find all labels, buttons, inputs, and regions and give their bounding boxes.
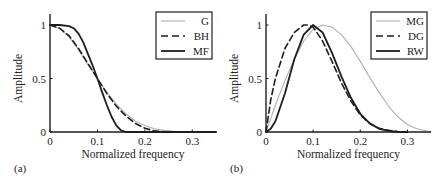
y-tick-label: 1	[41, 19, 47, 31]
y-tick-label: 0	[257, 126, 263, 138]
x-tick-label: 0	[263, 135, 269, 147]
legend-label-dg: DG	[408, 30, 424, 42]
x-tick-label: 0.3	[401, 135, 415, 147]
figure: 00.10.20.300.51Normalized frequencyAmpli…	[0, 0, 447, 184]
y-tick-label: 0.5	[32, 73, 46, 85]
x-tick-label: 0.2	[138, 135, 152, 147]
panel-label: (a)	[14, 162, 27, 175]
chart-panel-a: 00.10.20.300.51Normalized frequencyAmpli…	[12, 12, 216, 175]
legend-label-rw: RW	[407, 45, 425, 57]
y-tick-label: 0.5	[248, 73, 262, 85]
x-tick-label: 0.3	[185, 135, 199, 147]
chart-panel-b: 00.10.20.300.51Normalized frequencyAmpli…	[228, 12, 431, 175]
y-axis-label: Amplitude	[12, 54, 25, 103]
legend-label-mg: MG	[406, 15, 424, 27]
y-tick-label: 0	[41, 126, 47, 138]
x-tick-label: 0.2	[353, 135, 367, 147]
legend: MGDGRW	[371, 12, 427, 59]
legend-label-g: G	[201, 15, 209, 27]
y-axis-label: Amplitude	[228, 54, 241, 103]
y-tick-label: 1	[257, 19, 263, 31]
legend-label-bh: BH	[194, 30, 209, 42]
x-axis-label: Normalized frequency	[81, 148, 184, 161]
legend: GBHMF	[156, 12, 212, 59]
legend-label-mf: MF	[193, 45, 209, 57]
x-tick-label: 0.1	[306, 135, 320, 147]
panel-label: (b)	[230, 162, 243, 175]
x-tick-label: 0.1	[91, 135, 105, 147]
x-tick-label: 0	[47, 135, 53, 147]
x-axis-label: Normalized frequency	[297, 148, 400, 161]
